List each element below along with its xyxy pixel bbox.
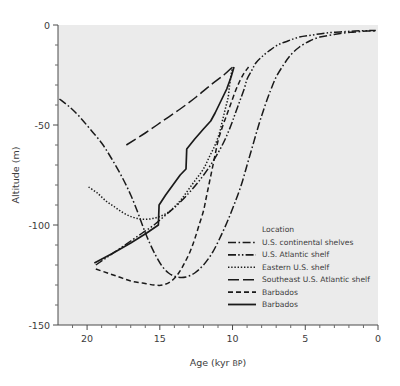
x-tick-label: 15 bbox=[154, 333, 166, 344]
y-axis-tick-labels: 0-50-100-150 bbox=[28, 20, 50, 331]
legend-label: Eastern U.S. shelf bbox=[262, 263, 329, 272]
x-tick-label: 5 bbox=[302, 333, 308, 344]
sea-level-curve-chart: 20151050 0-50-100-150 Age (kyr BP) Altit… bbox=[0, 0, 400, 386]
y-tick-label: -50 bbox=[34, 120, 50, 131]
y-tick-label: -150 bbox=[28, 320, 50, 331]
legend-label: Southeast U.S. Atlantic shelf bbox=[262, 275, 370, 284]
legend-title: Location bbox=[262, 225, 294, 234]
legend-label: Barbados bbox=[262, 288, 298, 297]
y-axis-ticks bbox=[53, 25, 58, 325]
legend-label: U.S. Atlantic shelf bbox=[262, 250, 329, 259]
x-tick-label: 0 bbox=[375, 333, 381, 344]
x-axis-ticks bbox=[73, 325, 378, 330]
x-axis-title: Age (kyr BP) bbox=[190, 357, 247, 368]
x-axis-tick-labels: 20151050 bbox=[81, 333, 381, 344]
x-tick-label: 20 bbox=[81, 333, 93, 344]
chart-figure: 20151050 0-50-100-150 Age (kyr BP) Altit… bbox=[0, 0, 400, 386]
y-tick-label: 0 bbox=[44, 20, 50, 31]
legend-label: U.S. continental shelves bbox=[262, 238, 354, 247]
legend-label: Barbados bbox=[262, 300, 298, 309]
y-tick-label: -100 bbox=[28, 220, 50, 231]
x-tick-label: 10 bbox=[226, 333, 238, 344]
y-axis-title: Altitude (m) bbox=[10, 147, 21, 204]
